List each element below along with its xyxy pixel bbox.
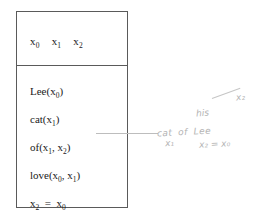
subscript-0: 0: [56, 91, 60, 100]
discourse-referents-row: x0x1x2: [30, 35, 95, 47]
subscript-0: 0: [58, 175, 62, 184]
subscript-2: 2: [63, 147, 67, 156]
referent-x2: x2: [73, 35, 83, 47]
subscript-1: 1: [73, 175, 77, 184]
annotation-word-cat: cat: [157, 128, 173, 139]
condition-cat: cat(x1): [30, 106, 127, 134]
annotation-sub-equality: x₂ = x₀: [199, 138, 231, 150]
subscript-1: 1: [52, 119, 56, 128]
subscript-1: 1: [48, 147, 52, 156]
drs-universe-section: x0x1x2: [17, 12, 127, 66]
condition-equality: x2 = x0: [30, 190, 127, 218]
annotation-his: his: [196, 108, 210, 119]
subscript-2: 2: [79, 41, 83, 50]
condition-love: love(x0, x1): [30, 162, 127, 190]
subscript-0: 0: [36, 41, 40, 50]
condition-of: of(x1, x2): [30, 134, 127, 162]
annotation-sub-x1: x₁: [165, 138, 174, 148]
annotation-word-of: of: [178, 127, 188, 137]
referent-x0: x0: [30, 35, 40, 47]
annotation-word-lee: Lee: [193, 126, 211, 137]
drs-box: x0x1x2 Lee(x0) cat(x1) of(x1, x2) love(x…: [16, 11, 128, 208]
annotation-top-label: x₂: [236, 92, 246, 103]
referent-x1: x1: [52, 35, 62, 47]
diagram-canvas: x0x1x2 Lee(x0) cat(x1) of(x1, x2) love(x…: [0, 0, 267, 222]
condition-lee: Lee(x0): [30, 78, 127, 106]
subscript-2: 2: [36, 203, 40, 212]
subscript-1: 1: [57, 41, 61, 50]
annotation-gloss-row: catofLee: [157, 126, 211, 139]
connector-line: [96, 133, 158, 134]
subscript-0: 0: [62, 203, 66, 212]
drs-conditions-section: Lee(x0) cat(x1) of(x1, x2) love(x0, x1) …: [17, 66, 127, 207]
